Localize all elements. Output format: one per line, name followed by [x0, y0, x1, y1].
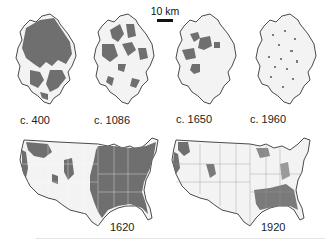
forest-patch — [286, 68, 288, 70]
regional-map-1960 — [250, 8, 322, 108]
regional-map-1960-label: c. 1960 — [250, 113, 286, 125]
forest-patch — [274, 66, 276, 68]
regional-map-1960-svg — [250, 8, 322, 108]
forest-patch — [270, 76, 272, 78]
forest-patch — [278, 44, 280, 46]
regional-map-1086-svg — [88, 8, 160, 108]
regional-map-400 — [10, 8, 82, 108]
bottom-divider — [36, 238, 325, 239]
forest-patch — [272, 34, 274, 36]
region-outline — [256, 14, 316, 104]
us-map-1620-label: 1620 — [110, 221, 134, 233]
us-map-1620-svg — [18, 134, 163, 234]
scale-bar-label: 10 km — [150, 6, 180, 17]
forest-patch — [284, 30, 286, 32]
us-map-1620 — [18, 134, 163, 234]
regional-map-400-label: c. 400 — [20, 114, 50, 126]
forest-patch — [268, 56, 270, 58]
forest-patch — [282, 86, 284, 88]
forest-patch — [280, 58, 282, 60]
regional-map-1650-svg — [170, 8, 242, 108]
forest-patch — [290, 50, 293, 52]
scale-bar: 10 km — [150, 6, 180, 22]
regional-map-1650 — [170, 8, 242, 108]
regional-map-1650-label: c. 1650 — [176, 113, 212, 125]
us-map-1920 — [170, 134, 315, 234]
regional-map-1086-label: c. 1086 — [94, 114, 130, 126]
region-outline — [176, 14, 236, 104]
us-map-1920-label: 1920 — [261, 221, 285, 233]
scale-bar-line — [157, 19, 173, 22]
forest-patch — [294, 38, 296, 40]
forest-patch — [292, 78, 294, 80]
us-map-1920-svg — [170, 134, 315, 234]
region-outline — [94, 14, 154, 104]
regional-map-1086 — [88, 8, 160, 108]
forest-patch — [296, 60, 298, 63]
forest-patch — [214, 42, 220, 48]
regional-map-400-svg — [10, 8, 82, 108]
